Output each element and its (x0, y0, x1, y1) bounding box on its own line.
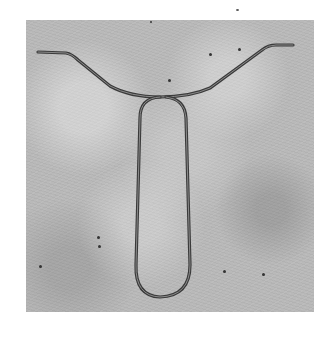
wire (0, 0, 335, 342)
wire-top-bar (38, 45, 293, 97)
wire-loop (136, 97, 190, 297)
